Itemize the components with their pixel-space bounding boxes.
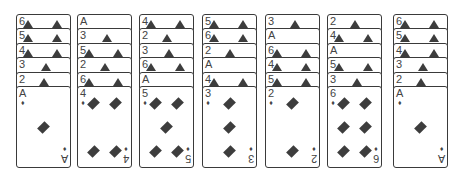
card-rank: A bbox=[80, 15, 87, 27]
diamond-pip-icon bbox=[84, 78, 94, 86]
diamond-pip-icon bbox=[37, 121, 50, 134]
card-rank: A bbox=[268, 29, 275, 41]
diamond-pip-icon bbox=[286, 97, 299, 110]
diamond-pip-icon bbox=[150, 145, 163, 158]
card-rank: 3 bbox=[268, 15, 274, 27]
diamond-pip-icon bbox=[52, 20, 62, 28]
diamond-pip-icon bbox=[88, 145, 101, 158]
card-rank: 2 bbox=[268, 87, 274, 99]
diamond-pip-icon bbox=[290, 20, 300, 28]
face-up-card[interactable]: 4♦4♦ bbox=[77, 86, 132, 168]
card-rank: 2 bbox=[80, 58, 86, 70]
diamond-pip-icon bbox=[363, 34, 373, 42]
diamond-pip-icon bbox=[88, 97, 101, 110]
diamond-pip-icon bbox=[238, 20, 248, 28]
face-up-card[interactable]: 2♦2♦ bbox=[265, 86, 320, 168]
diamond-pip-icon bbox=[301, 78, 311, 86]
tableau-column-1[interactable]: 65432A♦A♦ bbox=[16, 14, 71, 168]
diamond-pip-icon bbox=[23, 49, 33, 57]
diamond-pip-icon bbox=[416, 78, 426, 86]
face-up-card[interactable]: 6♦6♦ bbox=[327, 86, 382, 168]
card-rank: 3 bbox=[205, 87, 211, 99]
face-up-card[interactable]: A♦A♦ bbox=[16, 86, 71, 168]
diamond-pip-icon bbox=[418, 63, 428, 71]
diamond-pip-icon bbox=[150, 97, 163, 110]
card-rank: 3 bbox=[330, 73, 336, 85]
diamond-pip-icon bbox=[338, 121, 351, 134]
face-up-card[interactable]: 3♦3♦ bbox=[202, 86, 257, 168]
diamond-suit-icon: ♦ bbox=[123, 146, 129, 153]
card-rank: A bbox=[205, 58, 212, 70]
card-corner-index: 6♦ bbox=[330, 88, 336, 106]
card-corner-index: A♦ bbox=[438, 146, 445, 164]
diamond-pip-icon bbox=[52, 34, 62, 42]
diamond-suit-icon: ♦ bbox=[396, 99, 403, 106]
diamond-pip-icon bbox=[109, 97, 122, 110]
card-corner-index: A♦ bbox=[19, 88, 26, 106]
diamond-pip-icon bbox=[334, 34, 344, 42]
diamond-suit-icon: ♦ bbox=[19, 99, 26, 106]
card-corner-index: 4♦ bbox=[80, 88, 86, 106]
card-rank: 2 bbox=[396, 73, 402, 85]
diamond-pip-icon bbox=[209, 78, 219, 86]
card-rank: 6 bbox=[330, 87, 336, 99]
card-corner-index: A♦ bbox=[61, 146, 68, 164]
diamond-suit-icon: ♦ bbox=[205, 99, 211, 106]
diamond-suit-icon: ♦ bbox=[268, 99, 274, 106]
diamond-pip-icon bbox=[359, 145, 372, 158]
diamond-pip-icon bbox=[286, 145, 299, 158]
diamond-pip-icon bbox=[272, 78, 282, 86]
diamond-pip-icon bbox=[23, 20, 33, 28]
diamond-suit-icon: ♦ bbox=[61, 146, 68, 153]
diamond-suit-icon: ♦ bbox=[330, 99, 336, 106]
tableau-column-7[interactable]: 65432A♦A♦ bbox=[393, 14, 448, 168]
tableau-column-5[interactable]: 3A6452♦2♦ bbox=[265, 14, 320, 168]
card-rank: A bbox=[438, 153, 445, 165]
card-rank: 3 bbox=[396, 58, 402, 70]
diamond-pip-icon bbox=[175, 63, 185, 71]
diamond-pip-icon bbox=[171, 145, 184, 158]
diamond-pip-icon bbox=[39, 78, 49, 86]
diamond-pip-icon bbox=[429, 20, 439, 28]
diamond-pip-icon bbox=[146, 20, 156, 28]
diamond-pip-icon bbox=[171, 97, 184, 110]
card-rank: 5 bbox=[185, 153, 191, 165]
tableau-column-6[interactable]: 24A536♦6♦ bbox=[327, 14, 382, 168]
tableau-column-4[interactable]: 562A43♦3♦ bbox=[202, 14, 257, 168]
card-corner-index: 3♦ bbox=[248, 146, 254, 164]
diamond-pip-icon bbox=[225, 49, 235, 57]
diamond-pip-icon bbox=[84, 49, 94, 57]
diamond-pip-icon bbox=[52, 49, 62, 57]
diamond-pip-icon bbox=[162, 34, 172, 42]
diamond-pip-icon bbox=[109, 145, 122, 158]
diamond-pip-icon bbox=[359, 97, 372, 110]
diamond-pip-icon bbox=[113, 49, 123, 57]
card-corner-index: 2♦ bbox=[268, 88, 274, 106]
diamond-pip-icon bbox=[338, 145, 351, 158]
diamond-suit-icon: ♦ bbox=[185, 146, 191, 153]
card-rank: 6 bbox=[373, 153, 379, 165]
card-rank: 2 bbox=[311, 153, 317, 165]
diamond-pip-icon bbox=[113, 78, 123, 86]
diamond-pip-icon bbox=[301, 63, 311, 71]
diamond-pip-icon bbox=[223, 97, 236, 110]
face-up-card[interactable]: A♦A♦ bbox=[393, 86, 448, 168]
diamond-pip-icon bbox=[146, 63, 156, 71]
diamond-pip-icon bbox=[223, 145, 236, 158]
card-rank: 5 bbox=[142, 87, 148, 99]
diamond-pip-icon bbox=[238, 34, 248, 42]
diamond-pip-icon bbox=[301, 49, 311, 57]
diamond-pip-icon bbox=[400, 49, 410, 57]
diamond-pip-icon bbox=[429, 49, 439, 57]
diamond-suit-icon: ♦ bbox=[80, 99, 86, 106]
diamond-pip-icon bbox=[175, 20, 185, 28]
tableau-column-2[interactable]: A35264♦4♦ bbox=[77, 14, 132, 168]
diamond-pip-icon bbox=[338, 97, 351, 110]
tableau-column-3[interactable]: 4236A5♦5♦ bbox=[139, 14, 194, 168]
card-rank: 3 bbox=[142, 44, 148, 56]
face-up-card[interactable]: 5♦5♦ bbox=[139, 86, 194, 168]
card-corner-index: A♦ bbox=[396, 88, 403, 106]
diamond-pip-icon bbox=[400, 20, 410, 28]
card-rank: A bbox=[330, 44, 337, 56]
diamond-suit-icon: ♦ bbox=[142, 99, 148, 106]
